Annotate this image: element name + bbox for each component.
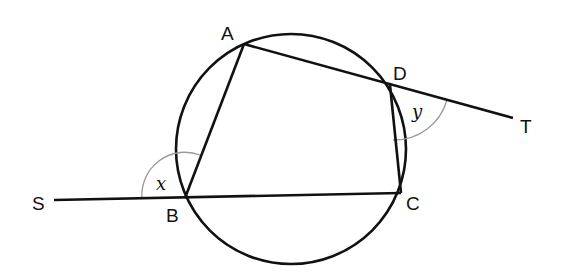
label-C: C (406, 193, 420, 214)
label-D: D (393, 63, 407, 84)
angle-x-arc (142, 152, 200, 199)
diagram-canvas: A D T S B C x y (0, 0, 572, 278)
label-S: S (32, 193, 45, 214)
label-B: B (166, 205, 179, 226)
side-AB (185, 44, 244, 198)
circle (176, 34, 406, 264)
angle-x-label: x (156, 173, 166, 194)
label-T: T (520, 116, 532, 137)
label-A: A (221, 23, 234, 44)
geometry-figure: A D T S B C x y (0, 0, 572, 278)
angle-y-label: y (411, 101, 423, 122)
line-SC (54, 193, 401, 200)
line-AT (244, 44, 513, 118)
